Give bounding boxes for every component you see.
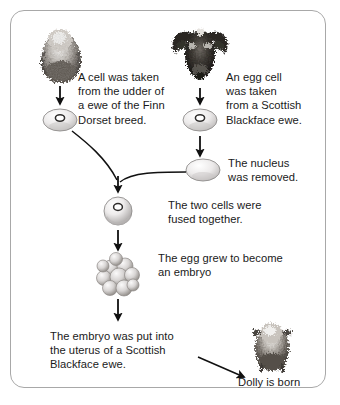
caption-birth: Dolly is born bbox=[238, 375, 330, 389]
caption-fusion: The two cells were fused together. bbox=[168, 198, 298, 226]
caption-egg-cell: An egg cell was taken from a Scottish Bl… bbox=[226, 70, 330, 127]
cloning-diagram-page: A cell was taken from the udder of a ewe… bbox=[0, 0, 340, 405]
caption-implantation: The embryo was put into the uterus of a … bbox=[50, 329, 194, 372]
caption-enucleation: The nucleus was removed. bbox=[228, 156, 328, 184]
dolly-lamb-photo bbox=[244, 318, 300, 374]
caption-embryo-growth: The egg grew to become an embryo bbox=[158, 251, 308, 279]
caption-somatic-cell: A cell was taken from the udder of a ewe… bbox=[78, 70, 182, 127]
